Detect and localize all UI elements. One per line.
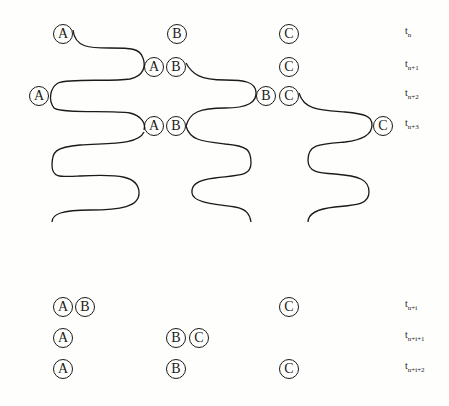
node-c: C bbox=[279, 359, 299, 379]
time-label: tn+i+2 bbox=[405, 360, 425, 374]
node-c: C bbox=[279, 24, 299, 44]
node-a: A bbox=[53, 297, 73, 317]
node-b: B bbox=[166, 57, 186, 77]
node-b: B bbox=[167, 24, 187, 44]
time-label-subscript: n bbox=[408, 31, 412, 39]
time-label: tn+i bbox=[405, 298, 417, 312]
time-label-subscript: n+i bbox=[408, 304, 417, 312]
node-b: B bbox=[256, 86, 276, 106]
node-c: C bbox=[189, 328, 209, 348]
time-label-subscript: n+2 bbox=[408, 93, 419, 101]
time-label-subscript: n+i+2 bbox=[408, 366, 425, 374]
node-a: A bbox=[53, 328, 73, 348]
time-label-subscript: n+i+1 bbox=[408, 335, 425, 343]
node-a: A bbox=[53, 359, 73, 379]
time-label: tn+2 bbox=[405, 87, 419, 101]
time-label: tn bbox=[405, 25, 411, 39]
node-b: B bbox=[166, 359, 186, 379]
time-label: tn+i+1 bbox=[405, 329, 425, 343]
node-a: A bbox=[29, 86, 49, 106]
node-c: C bbox=[279, 57, 299, 77]
time-label-subscript: n+3 bbox=[408, 123, 419, 131]
node-b: B bbox=[166, 116, 186, 136]
node-a: A bbox=[144, 116, 164, 136]
node-b: B bbox=[166, 328, 186, 348]
time-label: tn+3 bbox=[405, 117, 419, 131]
node-c: C bbox=[279, 297, 299, 317]
node-c: C bbox=[279, 86, 299, 106]
time-label: tn+1 bbox=[405, 58, 419, 72]
time-label-subscript: n+1 bbox=[408, 64, 419, 72]
node-c: C bbox=[373, 116, 393, 136]
node-a: A bbox=[53, 24, 73, 44]
node-a: A bbox=[144, 57, 164, 77]
node-b: B bbox=[75, 297, 95, 317]
